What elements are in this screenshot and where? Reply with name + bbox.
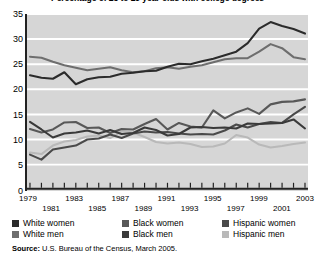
x-tick-label: 2001 [273, 205, 291, 213]
legend-swatch [12, 220, 19, 227]
legend-label: Black men [133, 230, 173, 239]
legend-label: Hispanic women [233, 219, 295, 228]
legend-label: White men [23, 230, 64, 239]
x-tick-label: 1997 [227, 205, 245, 213]
chart-title: Percentage of 25 to 29 year olds with co… [0, 0, 315, 3]
chart-legend: White womenWhite men Black womenBlack me… [12, 218, 307, 240]
source-label: Source: [12, 244, 40, 253]
legend-label: Black women [133, 219, 184, 228]
legend-swatch [122, 231, 129, 238]
legend-label: Hispanic men [233, 230, 285, 239]
y-tick-label: 20 [1, 85, 23, 94]
legend-column-2: Black womenBlack men [122, 218, 184, 240]
source-text: U.S. Bureau of the Census, March 2005. [40, 244, 177, 253]
x-axis-tick-labels: 1979198119831985198719891991199319951997… [25, 194, 308, 216]
x-tick-label: 1991 [158, 195, 176, 203]
series-line [30, 22, 305, 84]
x-tick-label: 1985 [88, 205, 106, 213]
x-tick-label: 1987 [111, 195, 129, 203]
x-tick-label: 1979 [19, 195, 37, 203]
legend-label: White women [23, 219, 75, 228]
x-tick-label: 1995 [204, 195, 222, 203]
plot-area [25, 14, 308, 191]
y-tick-label: 30 [1, 35, 23, 44]
plot-wrapper [25, 14, 308, 191]
y-tick-label: 10 [1, 136, 23, 145]
legend-swatch [12, 231, 19, 238]
legend-column-1: White womenWhite men [12, 218, 75, 240]
legend-item: Black men [122, 229, 184, 240]
x-tick-label: 1981 [42, 205, 60, 213]
x-tick-label: 1999 [250, 195, 268, 203]
x-tick-label: 2003 [296, 195, 314, 203]
series-line [30, 44, 305, 72]
x-tick-label: 1993 [181, 205, 199, 213]
legend-swatch [222, 220, 229, 227]
source-note: Source: U.S. Bureau of the Census, March… [12, 244, 177, 253]
x-tick-label: 1989 [135, 205, 153, 213]
legend-swatch [222, 231, 229, 238]
y-tick-label: 15 [1, 111, 23, 120]
legend-swatch [122, 220, 129, 227]
y-axis-tick-labels: 35302520151050 [0, 14, 23, 191]
legend-column-3: Hispanic womenHispanic men [222, 218, 295, 240]
y-tick-label: 5 [1, 161, 23, 170]
legend-item: Hispanic men [222, 229, 295, 240]
legend-item: Black women [122, 218, 184, 229]
y-tick-label: 25 [1, 60, 23, 69]
chart-figure: Percentage of 25 to 29 year olds with co… [0, 0, 315, 260]
series-line [30, 99, 305, 133]
legend-item: Hispanic women [222, 218, 295, 229]
y-tick-label: 35 [1, 10, 23, 19]
chart-lines [27, 14, 308, 190]
x-tick-label: 1983 [65, 195, 83, 203]
legend-item: White men [12, 229, 75, 240]
legend-item: White women [12, 218, 75, 229]
